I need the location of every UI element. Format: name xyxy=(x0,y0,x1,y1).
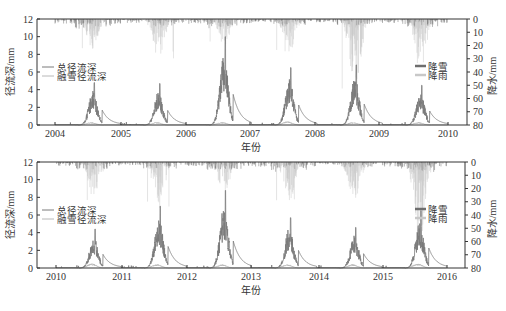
y-right-tick-label: 10 xyxy=(471,170,481,181)
x-tick-label: 2013 xyxy=(241,271,261,282)
x-tick-label: 2012 xyxy=(177,271,197,282)
x-tick-label: 2005 xyxy=(111,128,131,139)
y-right-tick-label: 80 xyxy=(471,263,481,274)
svg-text:融雪径流深: 融雪径流深 xyxy=(57,71,107,82)
x-tick-label: 2010 xyxy=(438,128,458,139)
y-right-tick-label: 0 xyxy=(471,157,476,168)
x-tick-label: 2011 xyxy=(112,271,132,282)
svg-text:降雨: 降雨 xyxy=(428,213,448,224)
precipitation-bars xyxy=(57,162,447,232)
y-axis-label-left: 径流深/mm xyxy=(4,48,16,97)
x-tick-label: 2008 xyxy=(305,128,325,139)
svg-text:降雨: 降雨 xyxy=(428,70,448,81)
y-tick-label: 2 xyxy=(28,102,33,113)
y-axis-label-left: 径流深/mm xyxy=(4,191,16,240)
y-right-tick-label: 30 xyxy=(471,196,481,207)
y-axis-label-right: 降水/mm xyxy=(486,200,498,239)
x-tick-label: 2009 xyxy=(369,128,389,139)
y-right-tick-label: 70 xyxy=(471,249,481,260)
y-tick-label: 0 xyxy=(28,263,33,274)
y-tick-label: 8 xyxy=(28,49,33,60)
y-tick-label: 10 xyxy=(23,31,33,42)
x-tick-label: 2006 xyxy=(176,128,196,139)
y-tick-label: 0 xyxy=(28,120,33,131)
y-tick-label: 6 xyxy=(28,67,33,78)
y-right-tick-label: 80 xyxy=(473,120,483,131)
y-right-tick-label: 20 xyxy=(471,183,481,194)
x-tick-label: 2016 xyxy=(437,271,457,282)
x-tick-label: 2015 xyxy=(373,271,393,282)
y-tick-label: 8 xyxy=(28,192,33,203)
x-tick-label: 2007 xyxy=(240,128,260,139)
y-tick-label: 4 xyxy=(28,227,33,238)
x-tick-label: 2010 xyxy=(46,271,66,282)
y-right-tick-label: 60 xyxy=(471,236,481,247)
y-tick-label: 12 xyxy=(23,157,33,168)
runoff-precipitation-chart: 0246810120102030405060708020042005200620… xyxy=(0,0,506,311)
panel-bottom: 0246810120102030405060708020102011201220… xyxy=(4,157,498,297)
y-tick-label: 2 xyxy=(28,245,33,256)
y-tick-label: 6 xyxy=(28,210,33,221)
x-tick-label: 2014 xyxy=(309,271,329,282)
y-right-tick-label: 60 xyxy=(473,93,483,104)
legend-runoff: 总径流深融雪径流深 xyxy=(42,62,107,82)
y-tick-label: 12 xyxy=(23,14,33,25)
y-right-tick-label: 0 xyxy=(473,14,478,25)
x-axis-label: 年份 xyxy=(241,141,261,153)
total-runoff-line xyxy=(56,190,447,268)
y-tick-label: 4 xyxy=(28,84,33,95)
y-right-tick-label: 40 xyxy=(471,210,481,221)
panel-top: 0246810120102030405060708020042005200620… xyxy=(4,14,498,154)
y-right-tick-label: 10 xyxy=(473,27,483,38)
y-right-tick-label: 70 xyxy=(473,106,483,117)
y-right-tick-label: 30 xyxy=(473,53,483,64)
total-runoff-line xyxy=(55,37,448,125)
y-axis-label-right: 降水/mm xyxy=(486,57,498,96)
x-tick-label: 2004 xyxy=(45,128,65,139)
y-right-tick-label: 40 xyxy=(473,67,483,78)
y-right-tick-label: 20 xyxy=(473,40,483,51)
legend-precipitation: 降雪降雨 xyxy=(415,61,448,81)
legend-runoff: 总径流深融雪径流深 xyxy=(42,205,107,225)
y-right-tick-label: 50 xyxy=(471,223,481,234)
y-right-tick-label: 50 xyxy=(473,80,483,91)
precipitation-bars xyxy=(55,19,447,88)
y-tick-label: 10 xyxy=(23,174,33,185)
svg-text:融雪径流深: 融雪径流深 xyxy=(57,214,107,225)
x-axis-label: 年份 xyxy=(241,284,261,296)
